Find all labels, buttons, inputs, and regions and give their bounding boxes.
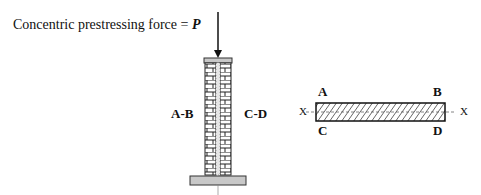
diagram-canvas bbox=[0, 0, 481, 195]
force-arrow-icon bbox=[214, 12, 222, 58]
grouted-core bbox=[216, 63, 220, 175]
label-c: C bbox=[318, 123, 327, 139]
label-c-d: C-D bbox=[244, 106, 267, 122]
label-d: D bbox=[433, 123, 442, 139]
wall-cross-section bbox=[306, 103, 456, 121]
label-b: B bbox=[433, 84, 442, 100]
label-a-b: A-B bbox=[171, 106, 193, 122]
label-a: A bbox=[318, 84, 327, 100]
base-plate bbox=[190, 176, 246, 185]
top-bearing-plate bbox=[204, 58, 232, 63]
axis-x-left: X bbox=[299, 105, 307, 117]
column-elevation bbox=[190, 58, 246, 195]
axis-x-right: X bbox=[460, 105, 468, 117]
